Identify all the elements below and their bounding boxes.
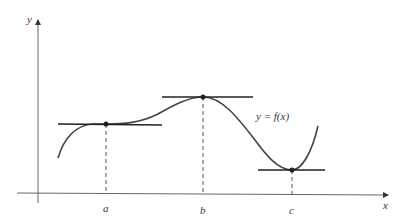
point-b [201, 95, 206, 100]
label-a: a [103, 203, 109, 214]
label-c: c [289, 205, 294, 216]
curve-label: y = f(x) [256, 111, 289, 122]
x-axis [17, 193, 388, 195]
point-c [290, 168, 295, 173]
tangent-line-a [58, 124, 162, 125]
y-axis-label: y [27, 14, 32, 25]
label-b: b [200, 205, 206, 216]
curve-f [58, 97, 318, 170]
x-axis-label: x [383, 200, 388, 211]
diagram-figure: y x y = f(x) a b c [0, 0, 407, 221]
diagram-canvas [0, 0, 407, 221]
point-a [104, 122, 109, 127]
